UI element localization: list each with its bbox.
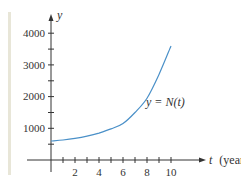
x-axis-label: t (year) [209,150,241,167]
axes [27,14,206,172]
y-tick-label-3000: 3000 [23,59,46,71]
x-tick-label-2: 2 [72,166,78,178]
x-tick-label-8: 8 [144,166,150,178]
y-tick-label-2000: 2000 [23,90,46,102]
chart-canvas: 1000 2000 3000 4000 2 4 6 8 10 y t (year… [0,0,241,183]
x-axis-arrow-icon [199,158,206,163]
curve-n-of-t [51,46,171,141]
x-axis-variable: t [209,153,213,167]
y-axis-label: y [56,8,63,22]
x-tick-label-10: 10 [166,166,178,178]
y-tick-label-4000: 4000 [23,27,46,39]
y-tick-label-1000: 1000 [23,122,46,134]
y-axis-arrow-icon [49,14,54,21]
x-axis-unit: (year) [219,153,241,167]
x-tick-label-4: 4 [96,166,102,178]
curve-label: y = N(t) [145,95,185,109]
x-tick-label-6: 6 [120,166,126,178]
